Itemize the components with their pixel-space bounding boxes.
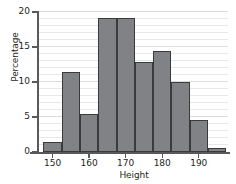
x-axis-ticks: 150160170180190 — [0, 0, 236, 184]
x-tick-label: 190 — [184, 158, 214, 168]
histogram-figure: 05101520 150160170180190 Percentage Heig… — [0, 0, 236, 184]
x-axis-title: Height — [36, 170, 232, 180]
x-tick-label: 170 — [111, 158, 141, 168]
y-axis-title: Percentage — [10, 12, 20, 102]
x-tick-label: 150 — [38, 158, 68, 168]
x-tick-label: 160 — [74, 158, 104, 168]
x-tick-label: 180 — [147, 158, 177, 168]
